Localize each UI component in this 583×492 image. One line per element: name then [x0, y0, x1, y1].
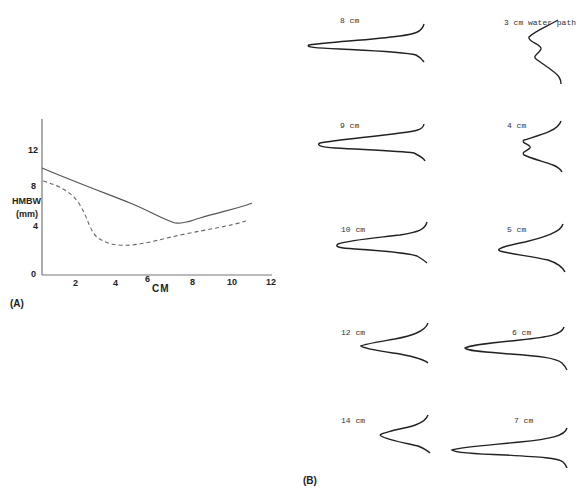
profile-3cm [529, 20, 561, 84]
y-tick-4: 4 [33, 221, 38, 231]
profile-14cm [380, 415, 430, 453]
chart-svg [0, 0, 583, 492]
profile-9cm [319, 124, 425, 161]
profile-label-5cm: 5 cm [507, 225, 526, 234]
profile-7cm [452, 428, 567, 468]
y-tick-8: 8 [31, 181, 36, 191]
profile-label-12cm: 12 cm [341, 328, 365, 337]
x-tick-10: 10 [227, 277, 237, 287]
profile-label-6cm: 6 cm [512, 328, 531, 337]
profile-label-10cm: 10 cm [341, 225, 365, 234]
x-tick-12: 12 [266, 277, 276, 287]
profile-label-7cm: 7 cm [514, 416, 533, 425]
profile-4cm [523, 121, 562, 172]
profile-label-3cm: 3 cm water path [504, 18, 576, 27]
profile-label-14cm: 14 cm [341, 416, 365, 425]
x-tick-4: 4 [113, 278, 118, 288]
profile-label-8cm: 8 cm [340, 16, 359, 25]
profile-12cm [361, 323, 428, 363]
solid-series-line [42, 168, 252, 223]
x-tick-8: 8 [190, 277, 195, 287]
y-axis-label-line1: HMBW [12, 196, 41, 206]
panel-a-label: (A) [10, 298, 24, 309]
panel-b-label: (B) [303, 475, 317, 486]
profile-8cm [308, 24, 424, 62]
x-tick-6: 6 [145, 274, 150, 284]
y-tick-0: 0 [31, 269, 36, 279]
y-axis-label-line2: (mm) [16, 209, 38, 219]
profile-label-4cm: 4 cm [507, 121, 526, 130]
y-tick-12: 12 [28, 145, 38, 155]
profile-label-9cm: 9 cm [340, 121, 359, 130]
x-axis-label: CM [152, 283, 170, 294]
x-tick-2: 2 [73, 278, 78, 288]
